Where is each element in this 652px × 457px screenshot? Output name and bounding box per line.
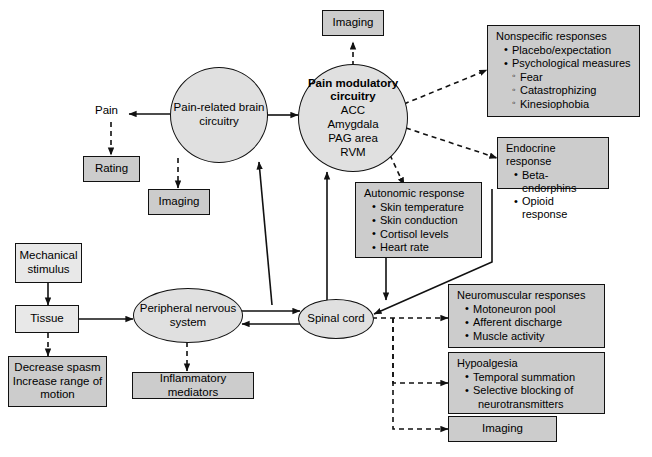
nonspecific-list: Placebo/expectation Psychological measur… <box>495 43 633 110</box>
imaging-bottom-label: Imaging <box>449 422 556 436</box>
list-item: Skin temperature <box>372 201 475 214</box>
node-endocrine-response[interactable]: Endocrine response Beta-endorphins Opioi… <box>497 137 609 189</box>
list-item: Temporal summation <box>465 371 598 384</box>
node-brain-circuitry[interactable]: Pain-related brain circuitry <box>170 67 268 163</box>
spinal-cord-label: Spinal cord <box>307 312 365 326</box>
autonomic-header: Autonomic response <box>364 187 475 200</box>
list-item: Catastrophizing <box>504 84 633 97</box>
list-item: Muscle activity <box>465 330 598 343</box>
edge-spinal-to-brain <box>259 162 272 305</box>
pain-modulatory-text: Pain modulatory circuitry ACC Amygdala P… <box>308 77 398 160</box>
edge-painmod-to-autonomic <box>390 155 404 185</box>
list-item: Selective blocking of <box>465 384 598 397</box>
decrease-spasm-line3: motion <box>9 388 106 402</box>
neuromuscular-header: Neuromuscular responses <box>457 289 598 302</box>
node-tissue[interactable]: Tissue <box>15 305 79 333</box>
edge-spinal-to-imagingbottom <box>393 318 448 429</box>
node-pain-modulatory-circuitry[interactable]: Pain modulatory circuitry ACC Amygdala P… <box>298 64 408 172</box>
node-spinal-cord[interactable]: Spinal cord <box>298 299 374 339</box>
rating-label: Rating <box>84 162 139 176</box>
node-nonspecific-responses[interactable]: Nonspecific responses Placebo/expectatio… <box>487 25 640 117</box>
node-decrease-spasm[interactable]: Decrease spasm Increase range of motion <box>8 356 107 407</box>
list-item-continuation: neurotransmitters <box>465 398 598 411</box>
list-item: Heart rate <box>372 241 475 254</box>
pain-modulatory-amygdala: Amygdala <box>308 118 398 132</box>
node-mechanical-stimulus[interactable]: Mechanical stimulus <box>15 243 82 283</box>
hypoalgesia-list: Temporal summation Selective blocking of… <box>456 370 598 410</box>
list-item: Psychological measures <box>504 57 633 70</box>
list-item: Motoneuron pool <box>465 303 598 316</box>
node-rating[interactable]: Rating <box>83 156 140 182</box>
endocrine-list: Beta-endorphins Opioid response <box>505 168 602 221</box>
imaging-left-label: Imaging <box>149 195 209 209</box>
pain-modulatory-rvm: RVM <box>308 146 398 160</box>
label-pain: Pain <box>95 104 118 116</box>
list-item: Cortisol levels <box>372 228 475 241</box>
pns-text: Peripheral nervous system <box>140 302 237 330</box>
imaging-top-label: Imaging <box>323 16 383 30</box>
list-item: Skin conduction <box>372 214 475 227</box>
mechanical-stimulus-line2: stimulus <box>16 263 81 277</box>
brain-circuitry-line1: Pain-related brain <box>174 101 265 115</box>
list-item: Fear <box>504 71 633 84</box>
endocrine-header: Endocrine response <box>506 142 602 168</box>
list-item: Placebo/expectation <box>504 44 633 57</box>
brain-circuitry-text: Pain-related brain circuitry <box>174 101 265 129</box>
list-item: Kinesiophobia <box>504 98 633 111</box>
pain-modulatory-acc: ACC <box>308 104 398 118</box>
node-peripheral-nervous-system[interactable]: Peripheral nervous system <box>133 288 243 343</box>
decrease-spasm-line1: Decrease spasm <box>9 361 106 375</box>
tissue-label: Tissue <box>16 312 78 326</box>
hypoalgesia-continuation: neurotransmitters <box>473 398 598 411</box>
decrease-spasm-line2: Increase range of <box>9 375 106 389</box>
node-hypoalgesia[interactable]: Hypoalgesia Temporal summation Selective… <box>448 352 605 414</box>
pain-modulatory-line2: circuitry <box>308 90 398 104</box>
autonomic-list: Skin temperature Skin conduction Cortiso… <box>363 200 475 254</box>
pain-modulatory-line1: Pain modulatory <box>308 77 398 91</box>
hypoalgesia-header: Hypoalgesia <box>457 357 598 370</box>
edge-spinal-to-hypoalgesia <box>393 318 448 383</box>
edge-painmod-to-endocrine <box>406 128 497 158</box>
node-inflammatory-mediators[interactable]: Inflammatory mediators <box>132 372 254 399</box>
list-item: Opioid response <box>514 195 602 221</box>
list-item: Beta-endorphins <box>514 169 602 195</box>
diagram-canvas: Imaging Pain-related brain circuitry Pai… <box>0 0 652 457</box>
brain-circuitry-line2: circuitry <box>174 115 265 129</box>
node-neuromuscular-responses[interactable]: Neuromuscular responses Motoneuron pool … <box>448 284 605 348</box>
mechanical-stimulus-line1: Mechanical <box>16 249 81 263</box>
node-imaging-bottom[interactable]: Imaging <box>448 416 557 442</box>
edge-painmod-to-nonspecific <box>404 70 487 104</box>
pns-line1: Peripheral nervous <box>140 302 237 316</box>
node-autonomic-response[interactable]: Autonomic response Skin temperature Skin… <box>355 182 482 258</box>
neuromuscular-list: Motoneuron pool Afferent discharge Muscl… <box>456 302 598 342</box>
inflammatory-mediators-label: Inflammatory mediators <box>133 372 253 399</box>
nonspecific-header: Nonspecific responses <box>496 30 633 43</box>
node-imaging-top[interactable]: Imaging <box>322 10 384 36</box>
list-item: Afferent discharge <box>465 316 598 329</box>
pns-line2: system <box>140 316 237 330</box>
node-imaging-left[interactable]: Imaging <box>148 189 210 215</box>
pain-modulatory-pag: PAG area <box>308 132 398 146</box>
